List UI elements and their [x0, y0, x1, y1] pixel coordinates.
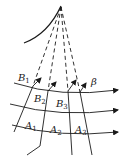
label-B2: B2	[34, 94, 46, 106]
label-A3: A3	[75, 125, 87, 137]
label-A2: A2	[50, 125, 62, 137]
label-B1: B1	[18, 73, 30, 85]
source-curve	[24, 6, 61, 43]
label-beta: β	[91, 77, 97, 87]
label-B3: B3	[56, 99, 68, 111]
label-A1: A1	[25, 121, 37, 133]
diagram: B1 B2 B3 β A1 A2 A3	[0, 0, 129, 163]
